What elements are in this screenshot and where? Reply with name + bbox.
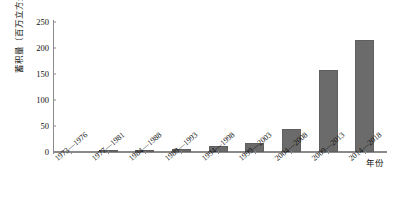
bar-series	[53, 22, 383, 152]
y-tick-label: 150	[36, 69, 53, 79]
y-tick-label: 50	[41, 121, 54, 131]
bar-chart: 蓄积量（百万立方米） 050100150200250 1973—19761977…	[0, 0, 404, 214]
y-tick-label: 250	[36, 17, 53, 27]
y-tick-label: 100	[36, 95, 53, 105]
y-tick-label: 200	[36, 43, 53, 53]
y-axis-title: 蓄积量（百万立方米）	[12, 0, 28, 94]
plot-area: 050100150200250	[53, 22, 383, 152]
x-axis-title: 年份	[366, 156, 384, 168]
